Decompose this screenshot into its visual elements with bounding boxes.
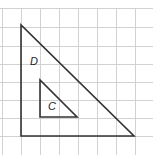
label-d: D <box>30 55 38 67</box>
triangle-c <box>40 80 77 117</box>
label-c: C <box>48 100 56 112</box>
triangle-d <box>21 25 134 136</box>
grid-diagram <box>0 0 153 155</box>
